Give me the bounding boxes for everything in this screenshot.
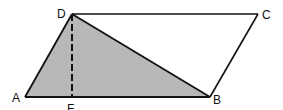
- label-c: C: [262, 8, 271, 22]
- label-a: A: [12, 91, 20, 105]
- shaded-triangle-abd: [25, 14, 210, 97]
- side-bc: [210, 14, 258, 97]
- label-b: B: [213, 93, 221, 107]
- parallelogram-diagram: D C A B F: [0, 0, 283, 110]
- label-f: F: [67, 102, 74, 110]
- label-d: D: [57, 7, 66, 21]
